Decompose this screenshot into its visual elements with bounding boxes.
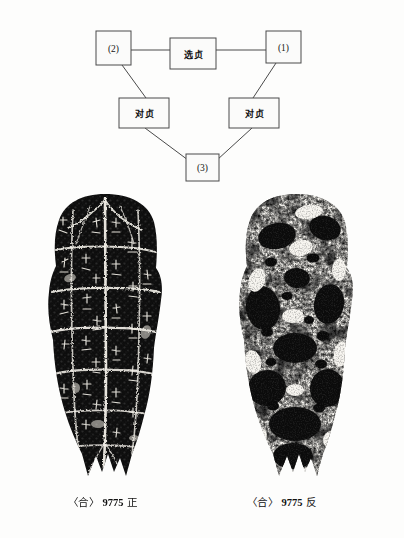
- diagram-node-3-label: (3): [197, 163, 208, 174]
- diagram-node-duizhen-left[interactable]: 对贞: [119, 98, 169, 128]
- caption-right-open-bracket: 〈: [247, 496, 257, 508]
- oracle-bone-plates: [0, 192, 404, 492]
- shell-body-reverse: [237, 192, 355, 487]
- caption-left: 〈合〉 9775 正: [68, 494, 138, 509]
- diagram-node-duizhen-right-label: 对贞: [245, 108, 266, 119]
- diagram-node-3[interactable]: (3): [186, 154, 219, 181]
- shell-body-obverse: [46, 192, 164, 487]
- caption-left-side: 正: [127, 496, 137, 508]
- caption-left-collection: 合: [78, 496, 88, 508]
- diagram-node-duizhen-left-label: 对贞: [135, 108, 156, 119]
- connector-duizhen-left-to-box3: [145, 128, 188, 160]
- caption-right-collection: 合: [257, 496, 267, 508]
- divination-pairing-diagram: (2) 选贞 (1) 对贞 对贞: [0, 0, 404, 195]
- connector-box2-to-duizhen-left: [122, 65, 146, 98]
- caption-right-number: 9775: [282, 497, 303, 508]
- diagram-node-xuanzhen[interactable]: 选贞: [170, 38, 216, 69]
- oracle-bone-rubbing-reverse: [237, 192, 355, 487]
- caption-right-side: 反: [306, 496, 316, 508]
- caption-right-close-bracket: 〉: [268, 496, 278, 508]
- document-page: (2) 选贞 (1) 对贞 对贞: [0, 0, 404, 538]
- diagram-node-2[interactable]: (2): [96, 31, 131, 65]
- connector-box1-to-duizhen-right: [253, 63, 276, 98]
- oracle-bone-rubbing-obverse: [46, 192, 164, 487]
- connector-duizhen-right-to-box3: [217, 128, 252, 160]
- diagram-node-2-label: (2): [108, 44, 119, 55]
- diagram-node-1-label: (1): [278, 43, 289, 54]
- caption-left-close-bracket: 〉: [89, 496, 99, 508]
- diagram-node-duizhen-right[interactable]: 对贞: [229, 98, 279, 128]
- caption-right: 〈合〉 9775 反: [247, 494, 317, 509]
- diagram-node-1[interactable]: (1): [266, 31, 301, 63]
- diagram-node-xuanzhen-label: 选贞: [184, 49, 205, 60]
- caption-left-open-bracket: 〈: [68, 496, 78, 508]
- caption-left-number: 9775: [103, 497, 124, 508]
